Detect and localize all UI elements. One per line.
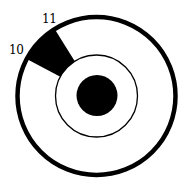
shaded-sector bbox=[27, 29, 75, 77]
label-10: 10 bbox=[9, 43, 23, 57]
center-disc bbox=[77, 75, 118, 116]
clock-sector-diagram: 11 10 bbox=[0, 0, 187, 189]
label-11: 11 bbox=[42, 12, 56, 26]
